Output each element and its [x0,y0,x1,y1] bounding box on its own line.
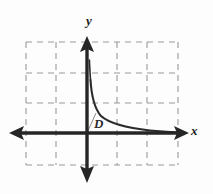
x-axis-label: x [191,124,198,137]
grid-horizontal-lines [26,42,178,165]
graph-figure: y x D [0,0,213,194]
hyperbola-curve-upper-tail [89,60,90,80]
hyperbola-curve [91,80,183,133]
coordinate-plane-svg [0,0,213,194]
region-label-d: D [94,117,103,130]
y-axis [80,36,94,183]
y-axis-label: y [86,14,92,27]
